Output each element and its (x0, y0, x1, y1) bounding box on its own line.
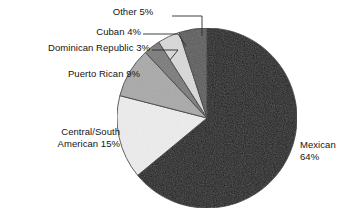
pie-chart-graphic (0, 0, 346, 217)
pie-chart: Other 5% Cuban 4% Dominican Republic 3% … (0, 0, 346, 217)
slice-label-cuban-line1: Cuban 4% (55, 26, 141, 38)
slice-label-mexican-line1: Mexican (300, 139, 346, 151)
slice-label-puerto-rican-line1: Puerto Rican 9% (28, 68, 140, 80)
slice-label-central-south-american-line1: Central/South (24, 126, 120, 138)
slice-label-central-south-american-line2: American 15% (24, 138, 120, 150)
slice-label-dominican-republic: Dominican Republic 3% (2, 42, 150, 54)
slice-label-other: Other 5% (94, 6, 172, 18)
slice-label-mexican-line2: 64% (300, 151, 346, 163)
pie-slices (117, 28, 297, 208)
slice-label-cuban: Cuban 4% (55, 26, 141, 38)
slice-label-dominican-republic-line1: Dominican Republic 3% (2, 42, 150, 54)
slice-label-central-south-american: Central/South American 15% (24, 126, 120, 149)
slice-label-mexican: Mexican 64% (300, 139, 346, 162)
slice-label-puerto-rican: Puerto Rican 9% (28, 68, 140, 80)
slice-label-other-line1: Other 5% (94, 6, 172, 18)
